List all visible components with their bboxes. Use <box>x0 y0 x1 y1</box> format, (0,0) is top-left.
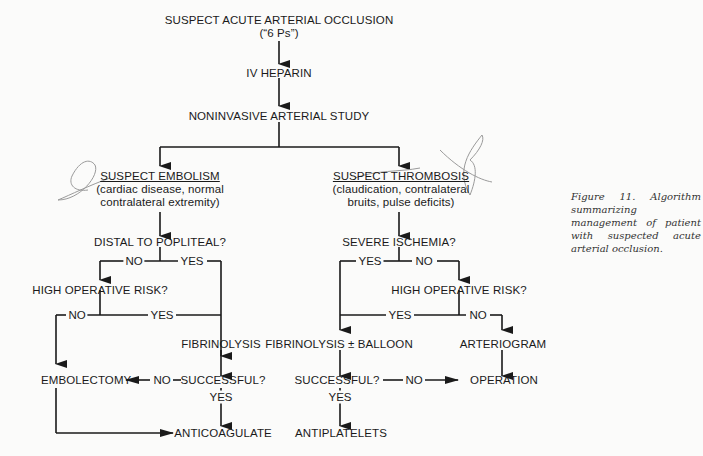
left-success-no-label: NO <box>151 374 172 387</box>
embolism-detail-2: contralateral extremity) <box>96 196 224 209</box>
root-title: SUSPECT ACUTE ARTERIAL OCCLUSION <box>165 14 394 27</box>
antiplatelets-node: ANTIPLATELETS <box>295 427 387 440</box>
right-risk-question: HIGH OPERATIVE RISK? <box>391 284 526 297</box>
fibrinolysis-node: FIBRINOLYSIS <box>181 338 261 351</box>
ischemia-question: SEVERE ISCHEMIA? <box>342 236 455 249</box>
right-risk-yes-label: YES <box>386 309 413 322</box>
ischemia-no-label: NO <box>413 255 434 268</box>
left-risk-question: HIGH OPERATIVE RISK? <box>32 284 167 297</box>
right-risk-no-label: NO <box>467 309 488 322</box>
embolism-node: SUSPECT EMBOLISM (cardiac disease, norma… <box>96 170 224 209</box>
left-risk-yes-label: YES <box>148 309 175 322</box>
left-success-question: SUCCESSFUL? <box>181 374 266 387</box>
left-success-yes-label: YES <box>207 391 234 404</box>
right-success-no-label: NO <box>403 374 424 387</box>
embolism-detail-1: (cardiac disease, normal <box>96 183 224 196</box>
distal-no-label: NO <box>123 255 144 268</box>
operation-node: OPERATION <box>470 374 538 387</box>
root-subtitle: (“6 Ps”) <box>165 27 394 40</box>
right-success-yes-label: YES <box>326 391 353 404</box>
thrombosis-heading: SUSPECT THROMBOSIS <box>332 170 469 183</box>
fibrinolysis-balloon-node: FIBRINOLYSIS ± BALLOON <box>265 338 413 351</box>
left-risk-no-label: NO <box>66 309 87 322</box>
arteriogram-node: ARTERIOGRAM <box>460 338 547 351</box>
distal-question: DISTAL TO POPLITEAL? <box>94 236 226 249</box>
thrombosis-detail-2: bruits, pulse deficits) <box>332 196 469 209</box>
thrombosis-detail-1: (claudication, contralateral <box>332 183 469 196</box>
figure-caption: Figure 11. Algorithm summarizing managem… <box>571 190 701 255</box>
embolectomy-node: EMBOLECTOMY <box>41 374 131 387</box>
distal-yes-label: YES <box>178 255 205 268</box>
anticoagulate-node: ANTICOAGULATE <box>174 427 272 440</box>
heparin-node: IV HEPARIN <box>246 67 311 80</box>
right-success-question: SUCCESSFUL? <box>295 374 380 387</box>
ischemia-yes-label: YES <box>356 255 383 268</box>
study-node: NONINVASIVE ARTERIAL STUDY <box>189 110 370 123</box>
embolism-heading: SUSPECT EMBOLISM <box>96 170 224 183</box>
thrombosis-node: SUSPECT THROMBOSIS (claudication, contra… <box>332 170 469 209</box>
root-node: SUSPECT ACUTE ARTERIAL OCCLUSION (“6 Ps”… <box>165 14 394 40</box>
